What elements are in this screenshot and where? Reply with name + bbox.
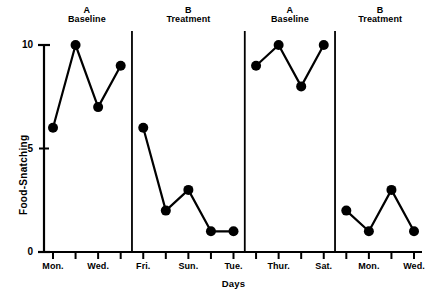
- phase-line-3: [346, 190, 414, 231]
- data-point: [296, 81, 306, 91]
- x-tick-label: Tue.: [214, 261, 254, 271]
- x-tick-label: Wed.: [78, 261, 118, 271]
- x-tick-label: Wed.: [394, 261, 426, 271]
- data-point: [229, 226, 239, 236]
- data-point: [274, 40, 284, 50]
- x-tick-label: Sat.: [304, 261, 344, 271]
- data-point: [116, 61, 126, 71]
- data-point: [364, 226, 374, 236]
- data-point: [386, 185, 396, 195]
- x-tick-label: Sun.: [168, 261, 208, 271]
- data-point: [251, 61, 261, 71]
- data-point: [341, 206, 351, 216]
- x-tick-label: Mon.: [349, 261, 389, 271]
- phase-line-1: [143, 128, 233, 232]
- data-point: [409, 226, 419, 236]
- phase-line-0: [53, 45, 121, 128]
- data-point: [161, 206, 171, 216]
- data-point: [138, 123, 148, 133]
- data-point: [93, 102, 103, 112]
- data-point: [71, 40, 81, 50]
- x-tick-label: Thur.: [259, 261, 299, 271]
- data-point: [206, 226, 216, 236]
- x-tick-label: Fri.: [123, 261, 163, 271]
- chart-container: A Baseline B Treatment A Baseline B Trea…: [0, 0, 426, 307]
- x-tick-label: Mon.: [33, 261, 73, 271]
- data-point: [48, 123, 58, 133]
- data-point: [319, 40, 329, 50]
- data-point: [183, 185, 193, 195]
- phase-line-2: [256, 45, 324, 86]
